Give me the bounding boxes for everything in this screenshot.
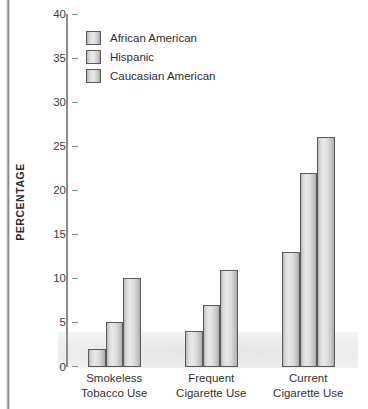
bar: [88, 349, 106, 367]
legend-swatch-icon: [86, 50, 101, 64]
bar: [203, 305, 221, 367]
bar: [123, 278, 141, 366]
legend-swatch-icon: [86, 31, 101, 45]
x-axis-group-label-line: Cigarette Use: [243, 386, 368, 401]
x-axis-group-label: CurrentCigarette Use: [243, 371, 368, 401]
legend-item: African American: [86, 28, 215, 47]
bar: [185, 331, 203, 366]
bar: [300, 173, 318, 367]
bar: [317, 137, 335, 366]
bar: [106, 322, 124, 366]
legend-item-label: African American: [110, 32, 197, 44]
legend-item: Caucasian American: [86, 66, 215, 85]
bar-chart: PERCENTAGE 0510152025303540 SmokelessTob…: [0, 0, 368, 409]
bar: [220, 270, 238, 367]
x-axis-group-label-line: Current: [243, 371, 368, 386]
chart-legend: African AmericanHispanicCaucasian Americ…: [86, 28, 215, 85]
legend-item-label: Caucasian American: [110, 70, 215, 82]
legend-item: Hispanic: [86, 47, 215, 66]
legend-item-label: Hispanic: [110, 51, 154, 63]
legend-swatch-icon: [86, 69, 101, 83]
bar: [282, 252, 300, 367]
